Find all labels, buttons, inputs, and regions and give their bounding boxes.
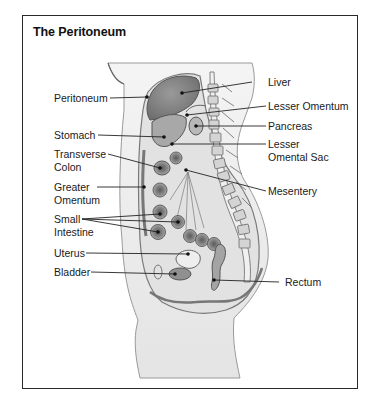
label-stomach: Stomach (54, 129, 95, 142)
label-uterus: Uterus (54, 247, 85, 260)
label-rectum: Rectum (285, 276, 321, 289)
label-lesser-omental-sac: LesserOmental Sac (268, 138, 329, 163)
label-liver: Liver (268, 76, 291, 89)
label-lesser-omentum: Lesser Omentum (268, 100, 349, 113)
label-bladder: Bladder (54, 266, 90, 279)
label-mesentery: Mesentery (268, 185, 317, 198)
label-peritoneum: Peritoneum (54, 92, 108, 105)
label-small-intestine: SmallIntestine (54, 213, 94, 238)
label-pancreas: Pancreas (268, 120, 312, 133)
label-greater-omentum: GreaterOmentum (54, 181, 100, 206)
transverse-colon (154, 161, 170, 175)
label-transverse-colon: TransverseColon (54, 148, 106, 173)
